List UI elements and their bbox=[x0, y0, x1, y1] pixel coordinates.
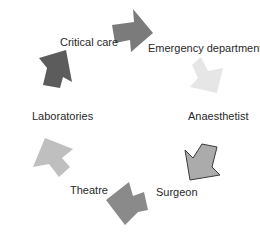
node-label-critical-care: Critical care bbox=[60, 36, 118, 48]
node-label-laboratories: Laboratories bbox=[32, 110, 93, 122]
arrow-icon-surgeon-to-theatre bbox=[106, 182, 148, 225]
arrow-icon-emergency-to-anaesthetist bbox=[190, 57, 223, 93]
arrow-icon-laboratories-to-critical-care bbox=[39, 50, 72, 88]
node-label-emergency-department: Emergency department bbox=[148, 42, 260, 54]
arrow-icon-anaesthetist-to-surgeon bbox=[185, 144, 220, 180]
node-label-surgeon: Surgeon bbox=[156, 186, 198, 198]
node-label-theatre: Theatre bbox=[70, 184, 108, 196]
arrow-icon-theatre-to-laboratories bbox=[33, 138, 73, 177]
node-label-anaesthetist: Anaesthetist bbox=[188, 110, 249, 122]
care-cycle-diagram: Critical care Emergency department Anaes… bbox=[0, 0, 260, 234]
arrow-icon-critical-care-to-emergency bbox=[112, 9, 153, 52]
